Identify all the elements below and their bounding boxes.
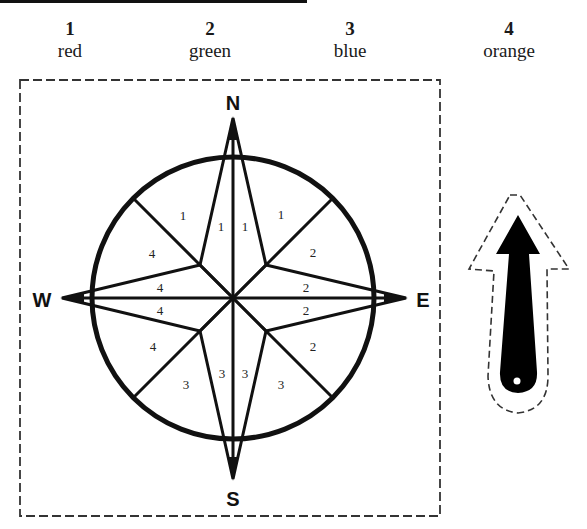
sector-label: 2 [310,339,317,354]
sector-label: 3 [219,366,226,381]
compass-axes [64,120,404,477]
arrow-pointer [469,195,569,413]
sector-label: 3 [242,366,249,381]
sector-label: 1 [180,208,187,223]
sector-label: 3 [183,377,190,392]
east-label: E [416,289,429,311]
sector-label: 2 [310,245,317,260]
west-label: W [33,289,52,311]
south-label: S [226,488,239,510]
arrow-up-icon [496,215,540,393]
sector-label: 2 [303,280,310,295]
sector-label: 3 [278,377,285,392]
pivot-hole [514,378,521,385]
sector-label: 1 [278,207,285,222]
sector-label: 4 [157,280,164,295]
sector-label: 4 [149,246,156,261]
sector-label: 1 [242,219,249,234]
sector-label: 2 [303,303,310,318]
sector-label: 1 [218,219,225,234]
sector-label: 4 [150,339,157,354]
compass-diagram: N E S W 1 1 1 1 2 2 2 2 3 3 3 3 4 4 4 4 [0,0,587,529]
north-label: N [226,92,240,114]
sector-label: 4 [157,303,164,318]
